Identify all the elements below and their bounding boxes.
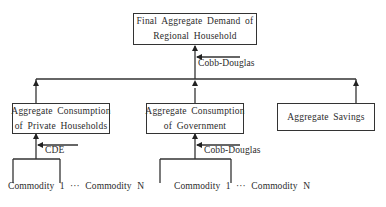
private-function-label: CDE bbox=[45, 145, 64, 155]
root-node-final-aggregate-demand: Final Aggregate Demand of Regional House… bbox=[133, 13, 257, 45]
private-node-line1: Aggregate Consumption bbox=[11, 104, 110, 119]
node-government: Aggregate Consumption of Government bbox=[146, 103, 244, 134]
demand-structure-diagram: Final Aggregate Demand of Regional House… bbox=[0, 0, 386, 207]
savings-node-label: Aggregate Savings bbox=[287, 110, 364, 125]
government-up-arrowhead bbox=[192, 80, 198, 86]
root-node-line2: Regional Household bbox=[153, 29, 236, 44]
private-up-arrowhead bbox=[33, 80, 39, 86]
private-commodity-leaves: Commodity 1 ··· Commodity N bbox=[8, 181, 144, 191]
root-function-label: Cobb-Douglas bbox=[198, 58, 255, 68]
savings-up-arrowhead bbox=[353, 80, 359, 86]
node-aggregate-savings: Aggregate Savings bbox=[277, 103, 375, 131]
government-function-label: Cobb-Douglas bbox=[204, 145, 261, 155]
node-private-households: Aggregate Consumption of Private Househo… bbox=[12, 103, 110, 134]
government-node-line1: Aggregate Consumption bbox=[145, 104, 244, 119]
root-node-line1: Final Aggregate Demand of bbox=[137, 14, 254, 29]
private-node-line2: of Private Households bbox=[15, 119, 108, 134]
government-commodity-leaves: Commodity 1 ··· Commodity N bbox=[174, 181, 310, 191]
government-node-line2: of Government bbox=[164, 119, 226, 134]
